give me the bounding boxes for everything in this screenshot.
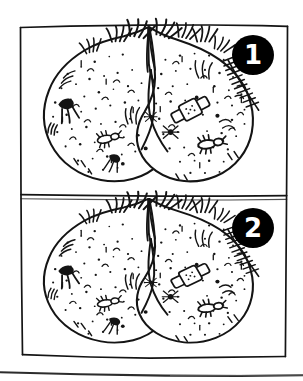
- illustration-artboard: 1 2: [0, 0, 303, 381]
- panel-2-badge-number: 2: [244, 213, 262, 243]
- illustration-page: 1 2: [0, 0, 303, 381]
- panel-1-badge-number: 1: [244, 40, 262, 70]
- panel-2-badge[interactable]: 2: [232, 208, 274, 248]
- panel-1-badge[interactable]: 1: [232, 35, 274, 75]
